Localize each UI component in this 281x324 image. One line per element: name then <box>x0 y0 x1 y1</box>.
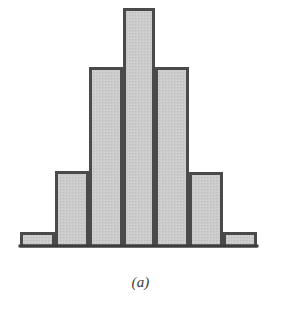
histogram-bar <box>157 69 188 247</box>
histogram-bar <box>225 234 256 247</box>
histogram-bar <box>191 174 222 247</box>
figure-container: (a) <box>0 0 281 324</box>
histogram-bar <box>91 69 122 247</box>
histogram-bar <box>57 173 88 247</box>
figure-label-a: (a) <box>0 274 281 291</box>
histogram-bar <box>22 234 54 247</box>
histogram-plot-area <box>0 0 281 262</box>
histogram-bars <box>22 10 256 247</box>
histogram-svg <box>0 0 281 262</box>
histogram-bar <box>125 10 154 247</box>
